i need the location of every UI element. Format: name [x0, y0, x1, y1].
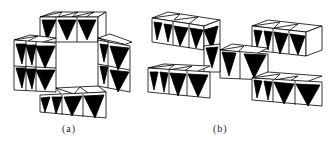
octahedra-ring-diagram — [0, 0, 140, 125]
caption-b: (b) — [213, 123, 228, 134]
ring-left-column — [14, 35, 56, 92]
slab-upper-left — [152, 12, 220, 50]
ring-right-column — [98, 34, 132, 92]
slab-lower-right — [252, 72, 322, 106]
octahedra-slab-diagram — [140, 0, 333, 120]
central-chain — [204, 44, 268, 80]
panel-b: (b) — [140, 0, 333, 145]
caption-a: (a) — [62, 123, 76, 134]
slab-lower-left — [148, 64, 210, 98]
panel-a: (a) — [0, 0, 140, 145]
